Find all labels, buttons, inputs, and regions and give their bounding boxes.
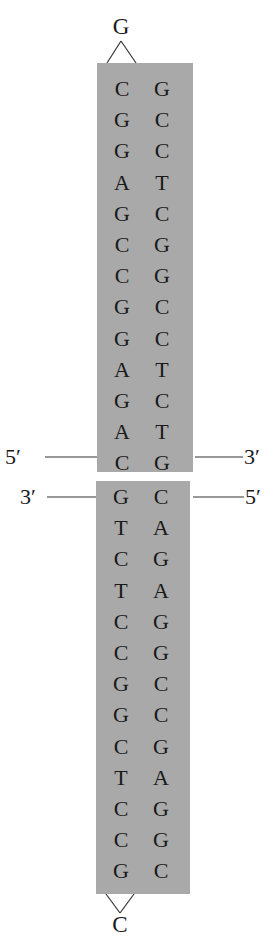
bottom-left-end-label: 3′ (20, 485, 36, 509)
base-left: C (108, 637, 134, 668)
base-pair-row: GC (96, 699, 190, 730)
base-right: T (149, 167, 175, 198)
base-pair-row: CG (96, 824, 190, 855)
base-pair-row: GC (97, 198, 193, 229)
base-left: G (109, 135, 135, 166)
base-right: A (148, 512, 174, 543)
base-pair-row: GC (97, 323, 193, 354)
base-right: C (149, 323, 175, 354)
base-left: A (109, 354, 135, 385)
base-right: C (149, 385, 175, 416)
base-pair-row: AT (97, 167, 193, 198)
base-pair-row: CG (97, 260, 193, 291)
base-pair-row: CG (97, 73, 193, 104)
bottom-right-end-label: 5′ (245, 485, 261, 509)
top-hairpin-stem: CGGCGCATGCCGCGGCGCATGCATCG (97, 63, 193, 472)
base-right: G (148, 637, 174, 668)
base-pair-row: CG (96, 543, 190, 574)
base-left: C (108, 824, 134, 855)
base-right: T (149, 416, 175, 447)
base-pair-row: GC (96, 668, 190, 699)
base-pair-row: CG (96, 637, 190, 668)
base-right: C (148, 855, 174, 886)
base-right: C (148, 668, 174, 699)
base-right: C (149, 291, 175, 322)
base-pair-row: CG (96, 606, 190, 637)
base-left: G (108, 699, 134, 730)
base-right: A (148, 575, 174, 606)
base-left: C (108, 606, 134, 637)
base-right: G (148, 606, 174, 637)
base-right: C (149, 198, 175, 229)
base-left: C (108, 793, 134, 824)
base-left: C (109, 260, 135, 291)
base-pair-row: TA (96, 512, 190, 543)
base-left: C (109, 229, 135, 260)
base-pair-row: CG (97, 447, 193, 478)
base-left: G (109, 385, 135, 416)
base-pair-row: GC (96, 855, 190, 886)
base-left: C (109, 447, 135, 478)
base-right: C (148, 481, 174, 512)
base-pair-row: CG (96, 731, 190, 762)
base-right: G (148, 793, 174, 824)
base-pair-row: AT (97, 354, 193, 385)
base-left: G (109, 104, 135, 135)
base-right: G (148, 824, 174, 855)
base-left: T (108, 512, 134, 543)
base-right: G (149, 447, 175, 478)
base-left: C (108, 543, 134, 574)
base-right: G (148, 731, 174, 762)
bottom-hairpin-stem: GCTACGTACGCGGCGCCGTACGCGGC (96, 481, 190, 894)
base-left: G (109, 323, 135, 354)
base-left: T (108, 575, 134, 606)
base-left: G (109, 198, 135, 229)
base-pair-row: GC (97, 291, 193, 322)
base-pair-row: GC (97, 135, 193, 166)
base-pair-row: CG (97, 229, 193, 260)
base-right: C (148, 699, 174, 730)
base-pair-row: GC (96, 481, 190, 512)
base-right: A (148, 762, 174, 793)
bottom-loop-base: C (105, 912, 135, 938)
base-right: G (149, 229, 175, 260)
base-right: G (149, 260, 175, 291)
base-pair-row: GC (97, 385, 193, 416)
top-left-end-label: 5′ (5, 445, 21, 469)
base-right: G (149, 73, 175, 104)
top-right-end-label: 3′ (244, 445, 260, 469)
base-pair-row: TA (96, 762, 190, 793)
base-left: G (108, 668, 134, 699)
base-left: C (108, 731, 134, 762)
base-pair-row: GC (97, 104, 193, 135)
base-left: G (108, 855, 134, 886)
base-left: G (108, 481, 134, 512)
base-right: C (149, 104, 175, 135)
base-right: C (149, 135, 175, 166)
base-pair-row: CG (96, 793, 190, 824)
base-pair-row: AT (97, 416, 193, 447)
base-right: G (148, 543, 174, 574)
base-left: T (108, 762, 134, 793)
base-left: A (109, 167, 135, 198)
base-left: G (109, 291, 135, 322)
top-loop-base: G (106, 14, 136, 40)
base-left: A (109, 416, 135, 447)
base-pair-row: TA (96, 575, 190, 606)
base-right: T (149, 354, 175, 385)
base-left: C (109, 73, 135, 104)
